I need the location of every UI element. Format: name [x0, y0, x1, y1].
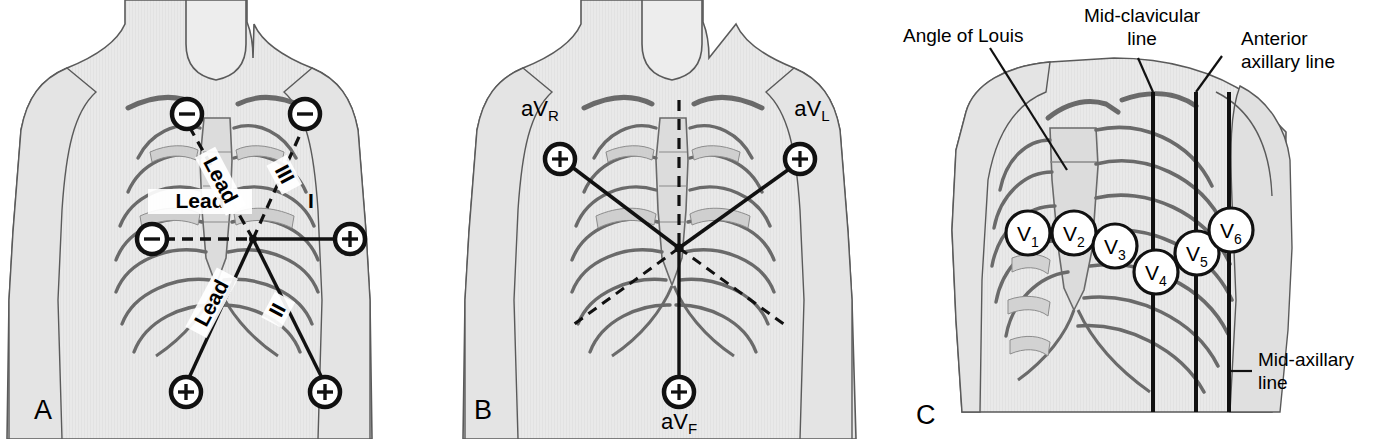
v1-base: V: [1017, 222, 1031, 245]
electrode-rl-positive[interactable]: [171, 377, 201, 407]
electrode-avl-positive[interactable]: [785, 144, 815, 174]
callout-mid-clavicular-line-1: Mid-clavicular: [1084, 5, 1201, 26]
avl-subscript: L: [821, 107, 829, 124]
panel-b-augmented-leads: aVR aVL aVF B: [440, 0, 900, 439]
electrode-ll-positive[interactable]: [310, 377, 340, 407]
panel-letter-b: B: [474, 395, 493, 425]
callout-mid-axillary-line-1: Mid-axillary: [1258, 349, 1355, 370]
v2-base: V: [1063, 222, 1077, 245]
panel-c-chest-leads: Angle of Louis Mid-clavicular line Anter…: [900, 0, 1390, 439]
v4-base: V: [1145, 261, 1159, 284]
panel-letter-c: C: [916, 400, 936, 430]
chest-lead-v6[interactable]: V6: [1209, 208, 1253, 252]
avl-base: aV: [794, 96, 821, 121]
callout-anterior-axillary-line-2: axillary line: [1241, 51, 1335, 72]
avf-base: aV: [661, 409, 688, 434]
v6-subscript: 6: [1234, 231, 1242, 247]
v3-base: V: [1104, 235, 1118, 258]
v6-base: V: [1220, 219, 1234, 242]
panel-a-limb-leads: Lead I Lead III Lead II: [0, 0, 440, 439]
v5-subscript: 5: [1200, 254, 1208, 270]
callout-anterior-axillary-line-1: Anterior: [1241, 28, 1308, 49]
chest-lead-v4[interactable]: V4: [1134, 250, 1178, 294]
avr-base: aV: [521, 96, 548, 121]
electrode-ra-negative[interactable]: [172, 99, 202, 129]
avr-subscript: R: [548, 107, 559, 124]
v2-subscript: 2: [1077, 234, 1085, 250]
callout-mid-clavicular-line-2: line: [1127, 28, 1157, 49]
panel-letter-a: A: [34, 395, 53, 425]
electrode-la-negative[interactable]: [290, 99, 320, 129]
v1-subscript: 1: [1031, 234, 1039, 250]
avf-subscript: F: [688, 420, 697, 437]
v5-base: V: [1186, 242, 1200, 265]
chest-lead-v2[interactable]: V2: [1052, 211, 1096, 255]
callout-angle-of-louis: Angle of Louis: [903, 25, 1023, 46]
chest-lead-v3[interactable]: V3: [1093, 224, 1137, 268]
ecg-lead-placement-figure: Lead I Lead III Lead II: [0, 0, 1390, 439]
electrode-right-lateral-negative[interactable]: [137, 224, 167, 254]
chest-lead-v1[interactable]: V1: [1006, 211, 1050, 255]
electrode-avr-positive[interactable]: [545, 144, 575, 174]
callout-mid-axillary-line-2: line: [1258, 372, 1288, 393]
electrode-avf-positive[interactable]: [664, 377, 694, 407]
v3-subscript: 3: [1118, 247, 1126, 263]
v4-subscript: 4: [1159, 273, 1167, 289]
electrode-left-lateral-positive[interactable]: [335, 224, 365, 254]
lead-i-numeral: I: [308, 189, 314, 212]
